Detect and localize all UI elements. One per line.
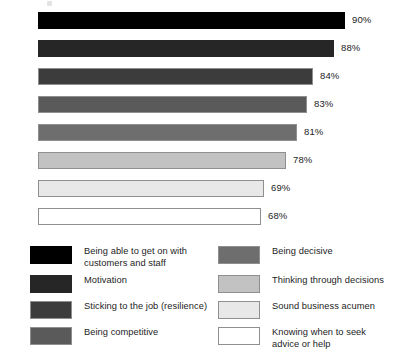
legend-item-label: Knowing when to seek advice or help: [272, 327, 366, 350]
bar-value-label: 83%: [314, 99, 333, 109]
legend-item-label: Sticking to the job (resilience): [84, 301, 207, 313]
bar-value-label: 69%: [271, 183, 290, 193]
bar-value-label: 81%: [304, 127, 323, 137]
bar-value-label: 78%: [293, 155, 312, 165]
bar-segment: [38, 68, 313, 85]
legend-item-label: Sound business acumen: [272, 301, 375, 313]
legend-item: Being decisive: [218, 246, 333, 264]
chart-legend: Being able to get on with customers and …: [0, 246, 393, 360]
bar-value-label: 68%: [268, 211, 287, 221]
bar-value-label: 88%: [341, 43, 360, 53]
chart-plot-area: 90% 88% 84% 83% 81% 78% 69% 68%: [0, 0, 393, 240]
legend-item-label: Being decisive: [272, 246, 333, 258]
legend-item: Motivation: [30, 275, 127, 293]
legend-swatch: [218, 275, 260, 293]
bar-row: 69%: [0, 176, 393, 200]
legend-swatch: [218, 301, 260, 319]
legend-item: Sound business acumen: [218, 301, 375, 319]
bar-segment: [38, 180, 264, 197]
legend-swatch: [30, 327, 72, 345]
legend-item: Being competitive: [30, 327, 158, 345]
bar-row: 78%: [0, 148, 393, 172]
legend-item-label: Motivation: [84, 275, 127, 287]
bar-chart: 90% 88% 84% 83% 81% 78% 69% 68%: [0, 0, 393, 360]
legend-swatch: [30, 275, 72, 293]
legend-item-label: Being competitive: [84, 327, 158, 339]
bar-row: 90%: [0, 8, 393, 32]
legend-item: Knowing when to seek advice or help: [218, 327, 366, 350]
bar-row: 83%: [0, 92, 393, 116]
legend-swatch: [218, 327, 260, 345]
bar-value-label: 90%: [352, 15, 371, 25]
legend-item: Thinking through decisions: [218, 275, 384, 293]
legend-swatch: [30, 246, 72, 264]
bar-row: 88%: [0, 36, 393, 60]
bar-segment: [38, 40, 334, 57]
legend-item-label: Thinking through decisions: [272, 275, 384, 287]
bar-segment: [38, 96, 307, 113]
bar-row: 68%: [0, 204, 393, 228]
legend-item: Sticking to the job (resilience): [30, 301, 207, 319]
bar-segment: [38, 124, 297, 141]
bar-row: 81%: [0, 120, 393, 144]
legend-swatch: [30, 301, 72, 319]
bar-row: 84%: [0, 64, 393, 88]
legend-item-label: Being able to get on with customers and …: [84, 246, 187, 269]
bar-value-label: 84%: [320, 71, 339, 81]
legend-swatch: [218, 246, 260, 264]
bar-segment: [38, 208, 261, 225]
bar-segment: [38, 12, 345, 29]
bar-segment: [38, 152, 286, 169]
legend-item: Being able to get on with customers and …: [30, 246, 187, 269]
